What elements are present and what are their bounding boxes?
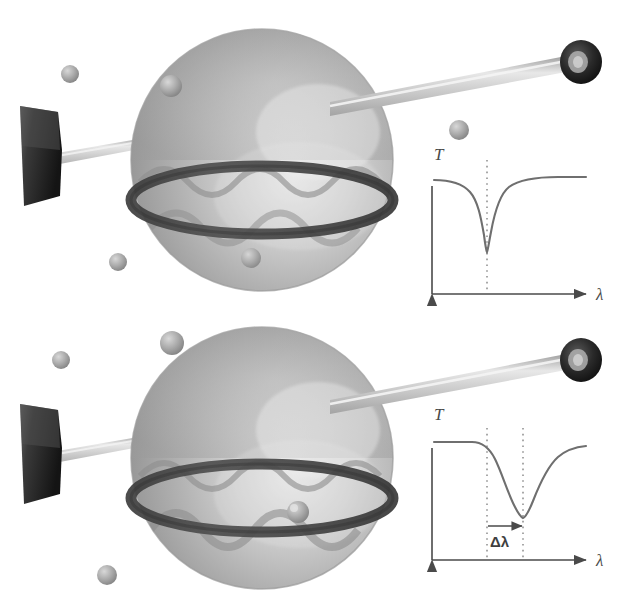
panel-bound-state: T λ Δλ bbox=[0, 298, 617, 596]
free-nanoparticle-group bbox=[61, 65, 127, 271]
transmission-curve bbox=[434, 442, 586, 518]
nanoparticle bbox=[241, 248, 261, 268]
y-axis-label: T bbox=[434, 405, 445, 424]
nanoparticle bbox=[97, 565, 117, 585]
scene-bound bbox=[0, 298, 410, 596]
fiber-coupler-block bbox=[20, 106, 62, 206]
scene-unbound bbox=[0, 0, 410, 298]
nanoparticle bbox=[109, 253, 127, 271]
nanoparticle bbox=[160, 331, 184, 355]
fiber-coupler-block bbox=[20, 404, 62, 504]
microsphere-resonator bbox=[131, 29, 393, 291]
transmission-curve bbox=[434, 177, 586, 252]
nanoparticle bbox=[449, 120, 469, 140]
x-axis-label: λ bbox=[595, 551, 603, 570]
microsphere-resonator bbox=[131, 327, 393, 589]
panel-unbound-state: T λ bbox=[0, 0, 617, 298]
plot-axes bbox=[432, 186, 586, 294]
plot-unshifted: T λ bbox=[410, 0, 617, 298]
y-axis-label: T bbox=[434, 145, 445, 164]
plot-shifted: T λ Δλ bbox=[410, 298, 617, 596]
wavelength-shift-label: Δλ bbox=[490, 533, 510, 550]
nanoparticle bbox=[52, 351, 70, 369]
nanoparticle bbox=[61, 65, 79, 83]
nanoparticle bbox=[160, 75, 182, 97]
bound-nanoparticle bbox=[287, 501, 309, 523]
